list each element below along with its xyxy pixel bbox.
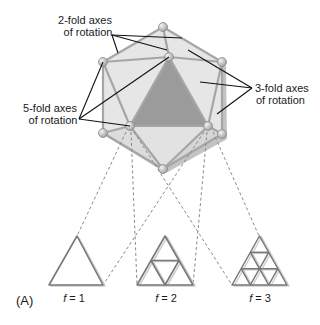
vertex-bottom bbox=[159, 165, 168, 174]
triangle-f1 bbox=[49, 236, 105, 286]
label-5fold-line1: 5-fold axes bbox=[23, 102, 77, 114]
label-2fold-line1: 2-fold axes bbox=[58, 14, 112, 26]
vertex-lower-left bbox=[99, 129, 108, 138]
label-f3: f = 3 bbox=[249, 292, 271, 304]
vertex-top bbox=[159, 23, 168, 32]
panel-label: (A) bbox=[16, 293, 33, 308]
pointer-2fold-a bbox=[112, 35, 118, 53]
triangle-f2 bbox=[137, 236, 195, 286]
vertex-inner-right bbox=[204, 122, 213, 131]
label-5fold-line2: of rotation bbox=[29, 114, 78, 126]
label-2fold-line2: of rotation bbox=[64, 26, 113, 38]
vertex-upper-right bbox=[218, 58, 227, 67]
icosahedron bbox=[99, 23, 228, 174]
label-f2: f = 2 bbox=[155, 292, 177, 304]
triangle-f3 bbox=[232, 236, 289, 286]
label-f1: f = 1 bbox=[63, 292, 85, 304]
icosahedron-diagram: 2-fold axes of rotation 3-fold axes of r… bbox=[0, 0, 320, 325]
vertex-lower-right bbox=[218, 130, 227, 139]
label-3fold-line2: of rotation bbox=[256, 94, 305, 106]
label-3fold-line1: 3-fold axes bbox=[255, 82, 309, 94]
